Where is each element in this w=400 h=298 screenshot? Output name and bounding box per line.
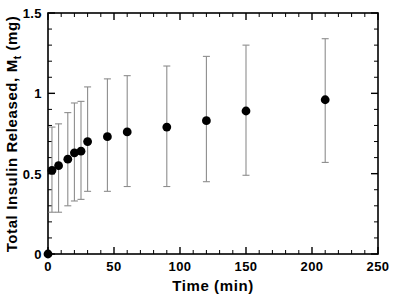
x-tick-label: 0	[44, 259, 52, 274]
plot-border	[48, 13, 378, 254]
data-point	[321, 95, 330, 104]
x-axis-tick-labels: 050100150200250	[44, 259, 389, 274]
data-point	[242, 107, 251, 116]
chart-figure: 050100150200250 00.511.5 Time (min) Tota…	[0, 0, 400, 298]
data-point	[123, 127, 132, 136]
y-tick-label: 1.5	[23, 6, 42, 21]
y-axis-title-main: Total Insulin Released, Mt (mg)	[3, 16, 23, 253]
y-tick-label: 1	[34, 86, 42, 101]
x-tick-label: 100	[169, 259, 192, 274]
y-axis-title: Total Insulin Released, Mt (mg)	[3, 16, 23, 253]
y-axis-title-text: Total Insulin Released, M	[3, 59, 20, 252]
data-point	[103, 132, 112, 141]
y-axis-ticks	[48, 13, 378, 254]
data-point	[63, 155, 72, 164]
scatter-plot-svg: 050100150200250 00.511.5 Time (min) Tota…	[0, 0, 400, 298]
error-bars-group	[48, 39, 328, 213]
data-point	[83, 137, 92, 146]
data-point	[44, 250, 53, 259]
y-tick-label: 0.5	[23, 167, 42, 182]
x-tick-label: 150	[235, 259, 258, 274]
plot-frame	[48, 13, 378, 254]
data-point	[54, 161, 63, 170]
y-axis-title-units-text: (mg)	[3, 16, 20, 51]
data-point	[202, 116, 211, 125]
y-axis-tick-labels: 00.511.5	[23, 6, 42, 262]
y-tick-label: 0	[34, 247, 42, 262]
x-tick-label: 200	[301, 259, 324, 274]
data-point	[162, 123, 171, 132]
data-point	[77, 147, 86, 156]
x-tick-label: 250	[367, 259, 390, 274]
x-axis-ticks	[48, 13, 378, 254]
data-markers-group	[44, 95, 330, 258]
x-axis-title: Time (min)	[172, 277, 254, 294]
x-tick-label: 50	[106, 259, 121, 274]
